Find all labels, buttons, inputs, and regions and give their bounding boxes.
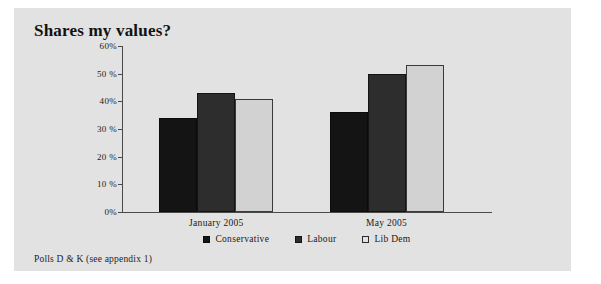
legend-swatch-icon [203, 236, 210, 243]
source-note: Polls D & K (see appendix 1) [34, 254, 152, 264]
legend-label: Labour [307, 234, 336, 244]
page-title: Shares my values? [34, 21, 171, 41]
bar-libdem [406, 65, 444, 212]
y-axis-tick-label: 20 % [97, 152, 117, 162]
bar-labour [197, 93, 235, 212]
y-axis-tick-label: 0% [104, 207, 117, 217]
legend-swatch-icon [362, 236, 369, 243]
y-axis-tick-mark [118, 129, 122, 130]
plot-area: 60%50 %40%30 %20 %10 %0% January 2005May… [122, 46, 492, 213]
y-axis-tick-mark [118, 212, 122, 213]
y-axis-tick-label: 60% [100, 41, 117, 51]
bar-libdem [235, 99, 273, 212]
y-axis-tick-mark [118, 101, 122, 102]
y-axis-tick-mark [118, 157, 122, 158]
legend-swatch-icon [295, 236, 302, 243]
bar-group [159, 46, 273, 212]
y-axis-tick-label: 10 % [97, 179, 117, 189]
y-axis-tick-label: 30 % [97, 124, 117, 134]
chart-figure: Shares my values? 60%50 %40%30 %20 %10 %… [14, 8, 571, 271]
bar-conservative [330, 112, 368, 212]
y-axis-tick-mark [118, 46, 122, 47]
y-axis-tick-label: 50 % [97, 69, 117, 79]
y-axis-tick-mark [118, 74, 122, 75]
legend-item: Labour [295, 234, 336, 244]
chart-legend: ConservativeLabourLib Dem [122, 234, 492, 244]
legend-label: Conservative [215, 234, 269, 244]
bar-labour [368, 74, 406, 212]
y-axis-tick-mark [118, 184, 122, 185]
bar-conservative [159, 118, 197, 212]
legend-label: Lib Dem [374, 234, 410, 244]
legend-item: Conservative [203, 234, 269, 244]
y-axis-tick-label: 40% [100, 96, 117, 106]
x-axis-category-label: January 2005 [189, 218, 244, 228]
x-axis-category-label: May 2005 [366, 218, 407, 228]
legend-item: Lib Dem [362, 234, 410, 244]
x-axis-line [122, 212, 492, 213]
bar-group [330, 46, 444, 212]
y-axis-line [122, 46, 123, 213]
